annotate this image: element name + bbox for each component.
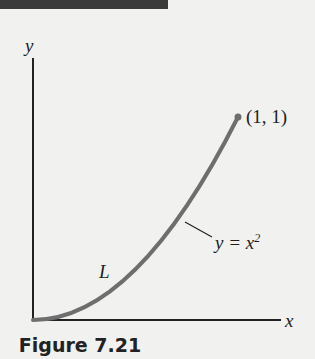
- parabola-curve: [33, 117, 238, 320]
- curve-equation-label: y = x2: [215, 232, 260, 252]
- curve-equation-base: y = x: [215, 232, 254, 253]
- label-pointer-line: [185, 222, 212, 237]
- x-axis-label: x: [285, 311, 293, 330]
- y-axis-label: y: [25, 36, 33, 55]
- arc-length-label: L: [99, 262, 110, 281]
- figure-plot: [0, 0, 315, 359]
- curve-equation-exponent: 2: [254, 231, 260, 245]
- point-marker: [235, 114, 242, 121]
- point-label: (1, 1): [246, 107, 287, 126]
- figure-caption: Figure 7.21: [0, 334, 160, 356]
